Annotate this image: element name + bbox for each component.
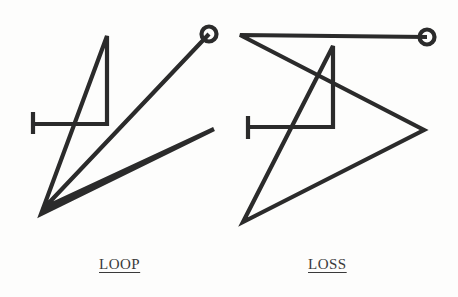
loss-circle-terminal-icon xyxy=(420,30,435,45)
loss-strokes xyxy=(240,30,435,223)
loop-figure xyxy=(0,0,458,297)
loss-figure xyxy=(0,0,458,297)
loss-caption-label: LOSS xyxy=(308,256,347,273)
loop-circle-terminal-icon xyxy=(202,27,217,42)
loss-polyline xyxy=(240,35,427,222)
figure-stage: LOOP LOSS xyxy=(0,0,458,297)
loop-caption-label: LOOP xyxy=(99,256,140,273)
loop-polyline xyxy=(33,34,214,214)
loop-strokes xyxy=(33,27,217,215)
